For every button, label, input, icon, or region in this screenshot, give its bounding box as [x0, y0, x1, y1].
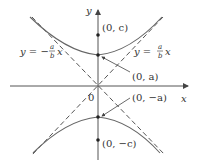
svg-text:b: b: [50, 52, 55, 60]
svg-text:x: x: [165, 46, 171, 57]
y-axis-label: y: [85, 5, 92, 16]
asymptote-left-equation: y = − a b x: [19, 43, 63, 60]
asymptote-right-equation: y = a b x: [133, 43, 171, 60]
focus-bottom-point: [96, 138, 100, 142]
focus-top-label: (0, c): [102, 22, 128, 33]
svg-text:a: a: [158, 43, 162, 51]
svg-text:y = −: y = −: [19, 46, 49, 57]
hyperbola-lower-branch: [33, 117, 160, 153]
pointer-vertex-top: [102, 57, 130, 72]
focus-top-point: [96, 33, 100, 37]
vertex-top-label: (0, a): [132, 71, 159, 82]
vertex-top-point: [96, 53, 100, 57]
origin-label: 0: [88, 92, 94, 103]
svg-text:b: b: [158, 52, 163, 60]
svg-text:x: x: [57, 46, 63, 57]
vertex-bottom-label: (0, −a): [132, 92, 167, 103]
focus-bottom-label: (0, −c): [102, 138, 137, 149]
vertex-bottom-point: [96, 115, 100, 119]
hyperbola-diagram: y x 0 (0, c) (0, a) (0, −a) (0, −c) y = …: [0, 0, 199, 167]
pointer-vertex-bottom: [102, 98, 130, 116]
svg-text:y =: y =: [133, 46, 151, 57]
svg-text:a: a: [50, 43, 54, 51]
x-axis-label: x: [181, 93, 187, 104]
